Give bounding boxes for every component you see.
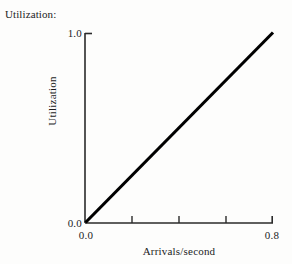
plot-area [0, 0, 292, 264]
x-axis-min-tick-label: 0.0 [74, 229, 98, 241]
y-axis-title: Utilization [46, 41, 58, 161]
utilization-data-line [86, 33, 274, 223]
x-axis-title: Arrivals/second [85, 245, 273, 257]
utilization-chart-figure: Utilization: 1.0 0.0 0.0 0.8 Utilization… [0, 0, 292, 264]
x-axis-max-tick-label: 0.8 [260, 229, 284, 241]
y-axis-min-tick-label: 0.0 [58, 217, 82, 229]
y-axis-max-tick-label: 1.0 [58, 27, 82, 39]
